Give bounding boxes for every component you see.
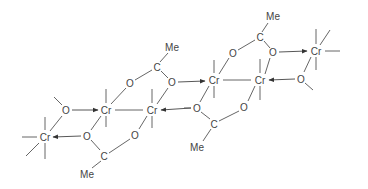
atom-o-e: O	[168, 77, 176, 88]
atom-c-low1: C	[100, 151, 107, 162]
bonds	[22, 23, 340, 168]
atom-o-f: O	[193, 103, 201, 114]
atom-c-up2: C	[256, 32, 263, 43]
atom-o-c: O	[131, 130, 139, 141]
atom-cr1: Cr	[40, 132, 51, 143]
atom-cr2: Cr	[101, 105, 112, 116]
methyl-low1: Me	[80, 169, 94, 180]
atom-c-low2: C	[210, 119, 217, 130]
atom-cr5: Cr	[255, 75, 266, 86]
methyl-up1: Me	[165, 42, 179, 53]
atom-cr3: Cr	[147, 105, 158, 116]
atom-c-up1: C	[153, 62, 160, 73]
atom-o-g: O	[240, 102, 248, 113]
atom-o-h: O	[229, 48, 237, 59]
methyl-up2: Me	[266, 11, 280, 22]
atom-labels: Cr Cr Cr Cr Cr Cr O O O O O O O O O O C …	[40, 11, 322, 180]
atom-o-a: O	[62, 105, 70, 116]
methyl-low2: Me	[190, 142, 204, 153]
chromium-acetate-structure: Cr Cr Cr Cr Cr Cr O O O O O O O O O O C …	[0, 0, 368, 189]
atom-o-d: O	[126, 78, 134, 89]
atom-cr6: Cr	[311, 46, 322, 57]
atom-o-i: O	[269, 47, 277, 58]
atom-o-j: O	[297, 74, 305, 85]
atom-cr4: Cr	[209, 75, 220, 86]
atom-o-b: O	[83, 131, 91, 142]
